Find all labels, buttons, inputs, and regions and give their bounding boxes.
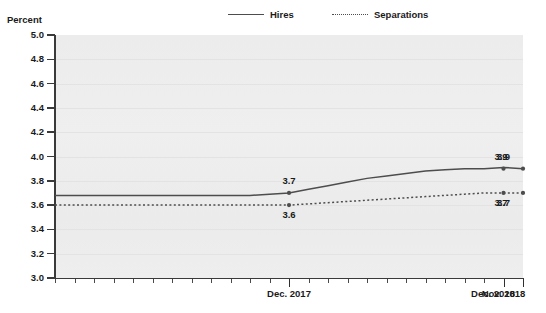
data-point-marker <box>521 167 525 171</box>
data-point-marker <box>287 191 291 195</box>
jolts-line-chart: Percent Hires Separations 5.04.84.64.44.… <box>0 0 546 313</box>
data-point-marker <box>521 191 525 195</box>
data-point-marker <box>501 167 505 171</box>
series-lines <box>0 0 546 313</box>
data-point-value-label: 3.6 <box>282 209 295 220</box>
data-point-value-label: 3.7 <box>494 197 507 208</box>
data-point-marker <box>287 203 291 207</box>
data-point-marker <box>501 191 505 195</box>
data-point-value-label: 3.9 <box>494 151 507 162</box>
data-point-value-label: 3.7 <box>282 175 295 186</box>
